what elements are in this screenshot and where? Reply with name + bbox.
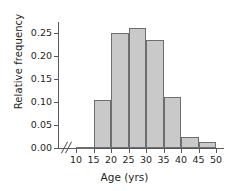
histogram-bar [181,137,199,148]
y-axis-tick-mark [54,56,58,57]
x-axis-tick-mark [199,149,200,153]
x-axis-tick-mark [129,149,130,153]
y-axis-tick-mark [54,125,58,126]
y-axis-tick-mark [54,148,58,149]
y-axis-tick-mark [54,33,58,34]
histogram-bar [94,100,112,148]
y-axis-tick-mark [54,102,58,103]
x-axis-tick-label: 50 [202,155,230,165]
y-axis-tick-mark [54,79,58,80]
histogram-bar [111,33,129,148]
histogram-bar [199,142,217,148]
histogram-bar [129,28,147,148]
x-axis-tick-mark [216,149,217,153]
x-axis-label: Age (yrs) [0,171,249,183]
x-axis-tick-mark [146,149,147,153]
histogram-figure: Relative frequency 0.000.050.100.150.200… [0,0,249,191]
histogram-bar [76,147,94,149]
x-axis-tick-mark [111,149,112,153]
x-axis-tick-mark [76,149,77,153]
x-axis-tick-mark [94,149,95,153]
histogram-bar [146,40,164,148]
x-axis-tick-mark [164,149,165,153]
x-axis-tick-mark [181,149,182,153]
histogram-bar [164,97,182,148]
